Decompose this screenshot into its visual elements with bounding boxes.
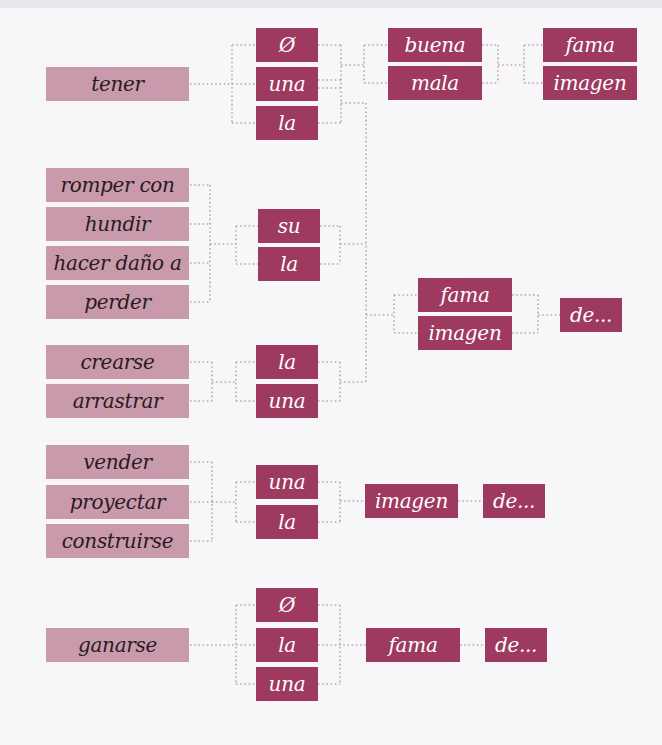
verb-box-perder: perder — [46, 285, 189, 319]
verb-box-tener: tener — [46, 67, 189, 101]
noun-box-imagen: imagen — [543, 66, 637, 100]
article-box-la: la — [256, 106, 318, 140]
noun-box-imagen: imagen — [418, 316, 512, 350]
article-box-la: la — [256, 505, 318, 539]
verb-box-hundir: hundir — [46, 207, 189, 241]
complement-box-de: de... — [560, 298, 622, 332]
verb-box-construirse: construirse — [46, 524, 189, 558]
article-box-una: una — [256, 67, 318, 101]
article-box-una: una — [256, 465, 318, 499]
article-box-la: la — [258, 247, 320, 281]
noun-box-fama: fama — [418, 278, 512, 312]
verb-box-proyectar: proyectar — [46, 485, 189, 519]
complement-box-de: de... — [483, 484, 545, 518]
collocation-diagram: tener Ø una la buena mala fama imagen ro… — [0, 0, 662, 745]
verb-box-crearse: crearse — [46, 345, 189, 379]
complement-box-de: de... — [485, 628, 547, 662]
verb-box-arrastrar: arrastrar — [46, 384, 189, 418]
verb-box-vender: vender — [46, 445, 189, 479]
verb-box-romper-con: romper con — [46, 168, 189, 202]
article-box-su: su — [258, 209, 320, 243]
noun-box-fama: fama — [366, 628, 460, 662]
verb-box-hacer-dano-a: hacer daño a — [46, 246, 189, 280]
adjective-box-buena: buena — [388, 28, 482, 62]
article-box-una: una — [256, 667, 318, 701]
adjective-box-mala: mala — [388, 66, 482, 100]
article-box-zero: Ø — [256, 588, 318, 622]
noun-box-imagen: imagen — [365, 484, 458, 518]
article-box-una: una — [256, 384, 318, 418]
article-box-zero: Ø — [256, 28, 318, 62]
noun-box-fama: fama — [543, 28, 637, 62]
article-box-la: la — [256, 345, 318, 379]
article-box-la: la — [256, 628, 318, 662]
verb-box-ganarse: ganarse — [46, 628, 189, 662]
